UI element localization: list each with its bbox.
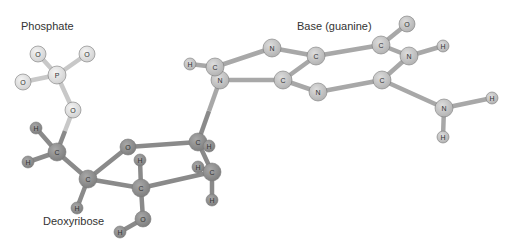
atom-symbol: O bbox=[20, 79, 26, 86]
atom-symbol: H bbox=[33, 125, 38, 132]
atom-symbol: C bbox=[85, 176, 90, 183]
atom-h: H bbox=[486, 92, 498, 104]
bond bbox=[382, 80, 444, 108]
atom-symbol: O bbox=[35, 51, 41, 58]
atom-symbol: P bbox=[55, 72, 60, 79]
atom-n: N bbox=[400, 47, 418, 65]
atom-symbol: H bbox=[25, 159, 30, 166]
atom-h: H bbox=[184, 58, 196, 70]
atom-h: H bbox=[22, 156, 34, 168]
atom-o: O bbox=[30, 46, 46, 62]
atom-symbol: H bbox=[187, 61, 192, 68]
atom-symbol: C bbox=[378, 42, 383, 49]
molecule-ball-and-stick: POOOOCHHCHOCHOHCHCHHNCHNCCNCONHCNHH bbox=[0, 0, 511, 246]
atom-h: H bbox=[192, 161, 204, 173]
atom-h: H bbox=[206, 194, 218, 206]
atom-c: C bbox=[79, 170, 97, 188]
atom-symbol: N bbox=[406, 53, 411, 60]
atom-o: O bbox=[15, 74, 31, 90]
bond bbox=[316, 45, 381, 56]
atom-symbol: H bbox=[137, 157, 142, 164]
atom-symbol: N bbox=[315, 89, 320, 96]
atom-p: P bbox=[48, 66, 66, 84]
atom-symbol: O bbox=[404, 21, 410, 28]
atom-symbol: C bbox=[212, 64, 217, 71]
atom-symbol: H bbox=[74, 205, 79, 212]
atom-symbol: O bbox=[140, 216, 146, 223]
atom-o: O bbox=[65, 102, 81, 118]
atom-symbol: H bbox=[117, 229, 122, 236]
atom-symbol: C bbox=[280, 77, 285, 84]
atom-o: O bbox=[79, 46, 95, 62]
atom-n: N bbox=[263, 39, 281, 57]
atom-h: H bbox=[30, 122, 42, 134]
atom-symbol: N bbox=[269, 45, 274, 52]
atom-o: O bbox=[135, 211, 151, 227]
atom-symbol: N bbox=[217, 77, 222, 84]
atom-symbol: H bbox=[209, 197, 214, 204]
atom-symbol: C bbox=[138, 185, 143, 192]
atom-symbol: H bbox=[195, 164, 200, 171]
atom-symbol: H bbox=[206, 143, 211, 150]
deoxyribose-label: Deoxyribose bbox=[43, 215, 104, 227]
atom-symbol: O bbox=[70, 107, 76, 114]
atom-symbol: C bbox=[209, 169, 214, 176]
atom-c: C bbox=[132, 179, 150, 197]
atom-symbol: H bbox=[489, 95, 494, 102]
atom-symbol: H bbox=[440, 134, 445, 141]
base-guanine-label: Base (guanine) bbox=[297, 20, 372, 32]
atom-symbol: O bbox=[84, 51, 90, 58]
bond bbox=[318, 80, 382, 92]
atom-h: H bbox=[437, 40, 449, 52]
atom-symbol: N bbox=[441, 105, 446, 112]
atom-h: H bbox=[134, 154, 146, 166]
atom-n: N bbox=[435, 99, 453, 117]
atom-h: H bbox=[114, 226, 126, 238]
bond bbox=[128, 142, 198, 147]
atom-c: C bbox=[274, 71, 292, 89]
nucleotide-diagram: POOOOCHHCHOCHOHCHCHHNCHNCCNCONHCNHH Phos… bbox=[0, 0, 511, 246]
atom-symbol: C bbox=[379, 77, 384, 84]
atom-h: H bbox=[71, 202, 83, 214]
phosphate-label: Phosphate bbox=[21, 20, 74, 32]
atom-c: C bbox=[372, 36, 390, 54]
atom-c: C bbox=[373, 71, 391, 89]
atom-symbol: C bbox=[54, 149, 59, 156]
atom-c: C bbox=[206, 58, 224, 76]
atom-symbol: C bbox=[313, 53, 318, 60]
atom-c: C bbox=[48, 143, 66, 161]
atom-o: O bbox=[120, 139, 136, 155]
atom-symbol: C bbox=[195, 139, 200, 146]
atom-symbol: H bbox=[440, 43, 445, 50]
atom-h: H bbox=[437, 131, 449, 143]
atom-c: C bbox=[307, 47, 325, 65]
atom-c: C bbox=[203, 163, 221, 181]
atom-o: O bbox=[399, 16, 415, 32]
atom-symbol: O bbox=[125, 144, 131, 151]
atom-n: N bbox=[309, 83, 327, 101]
atom-h: H bbox=[203, 140, 215, 152]
bond bbox=[141, 172, 212, 188]
